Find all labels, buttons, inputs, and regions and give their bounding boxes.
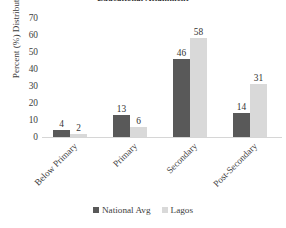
bar-group: 136 <box>113 18 147 137</box>
legend-label: National Avg <box>102 205 151 215</box>
y-axis-tick-60: 60 <box>16 30 38 40</box>
y-axis-tick-20: 20 <box>16 98 38 108</box>
chart-legend: National AvgLagos <box>0 205 286 215</box>
y-axis-tick-70: 70 <box>16 13 38 23</box>
legend-swatch-icon <box>93 207 99 213</box>
bar-value-label: 13 <box>107 104 137 114</box>
x-axis-line <box>42 137 282 138</box>
bar-value-label: 6 <box>124 116 154 126</box>
bar-value-label: 31 <box>244 73 274 83</box>
legend-item[interactable]: National Avg <box>93 205 151 215</box>
y-axis-tick-50: 50 <box>16 47 38 57</box>
bar-chart: Educational Attainment Percent (%) Distr… <box>0 0 286 228</box>
x-axis-category-labels: Below PrimaryPrimarySecondaryPost-Second… <box>0 139 286 197</box>
legend-swatch-icon <box>162 207 168 213</box>
bar <box>250 84 267 137</box>
bar <box>190 38 207 137</box>
legend-item[interactable]: Lagos <box>162 205 193 215</box>
bar <box>130 127 147 137</box>
plot-area: 4213646581431 <box>42 18 282 137</box>
y-axis-tick-30: 30 <box>16 81 38 91</box>
y-axis-tick-10: 10 <box>16 115 38 125</box>
y-axis-tick-labels: 706050403020100 <box>16 12 38 142</box>
bar <box>233 113 250 137</box>
bar-value-label: 58 <box>184 27 214 37</box>
bar-group: 4658 <box>173 18 207 137</box>
bar <box>173 59 190 137</box>
legend-label: Lagos <box>171 205 193 215</box>
bar-group: 1431 <box>233 18 267 137</box>
bar-group: 42 <box>53 18 87 137</box>
bar-value-label: 2 <box>64 123 94 133</box>
bar <box>70 134 87 137</box>
y-axis-tick-40: 40 <box>16 64 38 74</box>
chart-title: Educational Attainment <box>0 0 286 1</box>
